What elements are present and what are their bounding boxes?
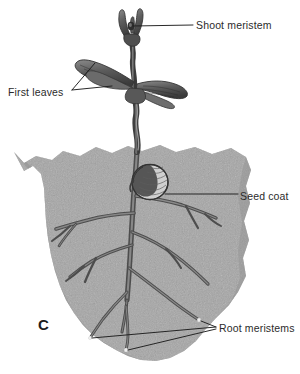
label-shoot-meristem: Shoot meristem [196, 19, 272, 31]
leader-first-leaves-lower [72, 86, 112, 90]
label-seed-coat: Seed coat [240, 190, 289, 202]
label-root-meristems: Root meristems [219, 322, 295, 334]
label-first-leaves: First leaves [8, 86, 63, 98]
panel-letter: C [38, 316, 49, 333]
shoot-tip [119, 9, 143, 46]
